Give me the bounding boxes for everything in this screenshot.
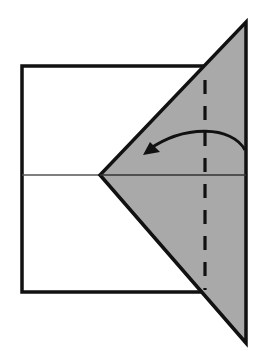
origami-diagram [0, 0, 266, 354]
